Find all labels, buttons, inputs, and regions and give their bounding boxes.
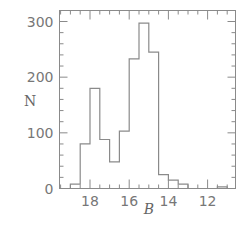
y-tick-label: 300: [27, 14, 54, 30]
y-tick-label: 100: [27, 125, 54, 141]
x-tick-label: 18: [81, 193, 99, 209]
plot-frame: [60, 11, 236, 189]
histogram-step-line: [70, 23, 227, 188]
histogram-chart: 0100200300 18161412 N B: [0, 0, 250, 226]
y-tick-label: 200: [27, 69, 54, 85]
x-tick-label: 12: [199, 193, 217, 209]
x-axis-title: B: [143, 201, 154, 217]
y-axis-title: N: [24, 93, 36, 109]
y-axis-ticks: 0100200300: [27, 14, 236, 197]
y-tick-label: 0: [45, 181, 54, 197]
x-tick-label: 14: [159, 193, 177, 209]
x-axis-ticks: 18161412: [61, 11, 228, 209]
x-tick-label: 16: [120, 193, 138, 209]
